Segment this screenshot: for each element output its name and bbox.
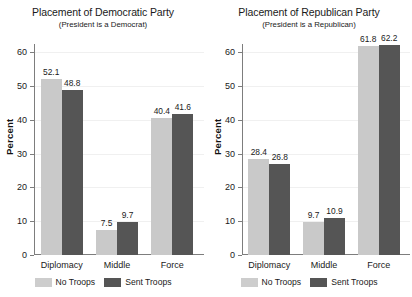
bar <box>248 159 269 255</box>
chart-title: Placement of Democratic Party <box>0 6 206 18</box>
legend-label: Sent Troops <box>125 277 171 287</box>
y-axis-tick <box>30 255 34 256</box>
chart-subtitle: (President is a Republican) <box>206 20 412 29</box>
chart-panel-republican: Placement of Republican Party (President… <box>206 0 412 297</box>
bar-group: 9.710.9Middle <box>303 52 345 255</box>
y-axis-tick <box>30 154 34 155</box>
y-axis-tick <box>30 52 34 53</box>
y-axis-tick <box>238 255 242 256</box>
legend-swatch-icon-no-troops <box>241 278 258 287</box>
legend-swatch-icon-no-troops <box>35 278 52 287</box>
bar <box>172 114 193 255</box>
y-axis-tick <box>238 120 242 121</box>
legend-item-no-troops: No Troops <box>35 277 96 287</box>
bar <box>269 164 290 255</box>
y-axis-tick-label: 60 <box>225 47 235 57</box>
bar-value-label: 48.8 <box>57 78 87 88</box>
bar-group: 52.148.8Diplomacy <box>41 52 83 255</box>
legend-label: No Troops <box>262 277 302 287</box>
bar-value-label: 41.6 <box>168 102 198 112</box>
y-axis-tick-label: 40 <box>225 115 235 125</box>
bar <box>62 90 83 255</box>
y-axis-tick <box>30 120 34 121</box>
chart-subtitle: (President is a Democrat) <box>0 20 206 29</box>
y-axis-tick-label: 0 <box>230 250 235 260</box>
bar <box>151 118 172 255</box>
y-axis-tick-label: 20 <box>225 182 235 192</box>
y-axis-label: Percent <box>4 119 15 155</box>
y-axis-tick-label: 60 <box>17 47 27 57</box>
y-axis-tick-label: 50 <box>225 81 235 91</box>
x-axis-tick-label: Force <box>132 260 212 270</box>
y-axis-tick <box>238 221 242 222</box>
chart-legend: No Troops Sent Troops <box>206 277 412 287</box>
bar-group: 61.862.2Force <box>358 52 400 255</box>
bar-group: 28.426.8Diplomacy <box>248 52 290 255</box>
y-axis-tick <box>238 52 242 53</box>
bar-group: 40.441.6Force <box>151 52 193 255</box>
y-axis-line <box>34 44 35 255</box>
bar <box>379 45 400 255</box>
chart-title: Placement of Republican Party <box>206 6 412 18</box>
chart-panel-democratic: Placement of Democratic Party (President… <box>0 0 206 297</box>
legend-label: No Troops <box>56 277 96 287</box>
bar-group: 7.59.7Middle <box>96 52 138 255</box>
y-axis-tick-label: 10 <box>17 216 27 226</box>
legend-item-no-troops: No Troops <box>241 277 302 287</box>
y-axis-tick-label: 0 <box>22 250 27 260</box>
chart-legend: No Troops Sent Troops <box>0 277 206 287</box>
y-axis-tick-label: 30 <box>17 149 27 159</box>
legend-item-sent-troops: Sent Troops <box>104 277 171 287</box>
y-axis-tick-label: 20 <box>17 182 27 192</box>
bar-value-label: 26.8 <box>265 152 295 162</box>
bar-value-label: 9.7 <box>113 210 143 220</box>
y-axis-label: Percent <box>212 119 223 155</box>
bar <box>41 79 62 255</box>
y-axis-tick-label: 10 <box>225 216 235 226</box>
legend-swatch-icon-sent-troops <box>104 278 121 287</box>
bar <box>358 46 379 255</box>
plot-area: 010203040506028.426.8Diplomacy9.710.9Mid… <box>242 52 406 255</box>
legend-item-sent-troops: Sent Troops <box>310 277 377 287</box>
bar <box>303 222 324 255</box>
legend-label: Sent Troops <box>331 277 377 287</box>
y-axis-tick <box>30 86 34 87</box>
y-axis-tick <box>30 187 34 188</box>
bar <box>96 230 117 255</box>
y-axis-tick <box>238 154 242 155</box>
y-axis-tick <box>238 86 242 87</box>
y-axis-tick-label: 50 <box>17 81 27 91</box>
bar-value-label: 52.1 <box>36 67 66 77</box>
y-axis-tick-label: 30 <box>225 149 235 159</box>
legend-swatch-icon-sent-troops <box>310 278 327 287</box>
bar <box>117 222 138 255</box>
y-axis-tick <box>238 187 242 188</box>
bar <box>324 218 345 255</box>
bar-value-label: 10.9 <box>320 206 350 216</box>
plot-area: 010203040506052.148.8Diplomacy7.59.7Midd… <box>34 52 200 255</box>
bar-value-label: 62.2 <box>374 33 404 43</box>
y-axis-tick-label: 40 <box>17 115 27 125</box>
dual-bar-chart-figure: Placement of Democratic Party (President… <box>0 0 412 297</box>
x-axis-tick-label: Force <box>339 260 412 270</box>
y-axis-tick <box>30 221 34 222</box>
